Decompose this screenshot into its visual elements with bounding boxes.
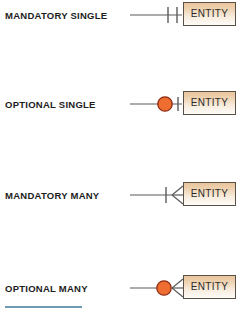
entity-box-label: ENTITY [191, 282, 228, 292]
notation-one-optional [128, 89, 184, 119]
entity-box-label: ENTITY [191, 9, 228, 19]
entity-box-label: ENTITY [191, 189, 228, 199]
crowsfoot-prong-upper [172, 186, 183, 195]
footer-divider [5, 306, 82, 308]
optional-circle-icon [157, 281, 171, 295]
entity-box-label: ENTITY [191, 98, 228, 108]
optional-circle-icon [158, 97, 172, 111]
crowsfoot-prong-lower [172, 288, 183, 297]
row-label-optional-single: OPTIONAL SINGLE [5, 99, 96, 110]
notation-many-optional [128, 273, 184, 303]
row-label-mandatory-many: MANDATORY MANY [5, 190, 99, 201]
legend-row-mandatory-single: MANDATORY SINGLE ENTITY [0, 0, 241, 30]
row-label-mandatory-single: MANDATORY SINGLE [5, 10, 107, 21]
er-cardinality-legend: MANDATORY SINGLE ENTITY OPTIONAL SINGLE … [0, 0, 241, 314]
entity-box: ENTITY [183, 275, 236, 299]
crowsfoot-prong-upper [172, 279, 183, 288]
legend-row-optional-single: OPTIONAL SINGLE ENTITY [0, 89, 241, 119]
notation-many-mandatory [128, 180, 184, 210]
entity-box: ENTITY [183, 2, 236, 26]
entity-box: ENTITY [183, 182, 236, 206]
row-label-optional-many: OPTIONAL MANY [5, 283, 88, 294]
entity-box: ENTITY [183, 91, 236, 115]
notation-one-mandatory [128, 0, 184, 30]
legend-row-mandatory-many: MANDATORY MANY ENTITY [0, 180, 241, 210]
legend-row-optional-many: OPTIONAL MANY ENTITY [0, 273, 241, 303]
crowsfoot-prong-lower [172, 195, 183, 204]
